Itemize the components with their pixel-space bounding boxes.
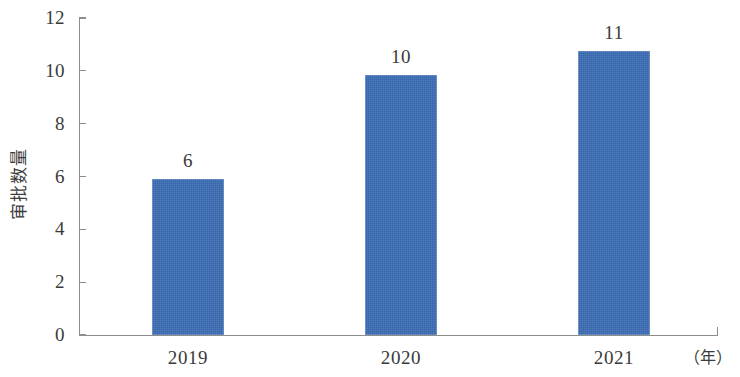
- y-axis-tick-label: 6: [31, 167, 65, 186]
- y-axis-tick-label: 2: [31, 272, 65, 291]
- y-axis-tick-label: 12: [31, 8, 65, 27]
- x-axis-tick-label: 2020: [335, 348, 467, 367]
- y-axis-tick: [79, 17, 86, 18]
- bar-value-label: 10: [345, 47, 457, 66]
- bar-chart: 审批数量 121086420 62019102020112021 （年）: [0, 0, 740, 377]
- bar: [152, 179, 224, 335]
- bar-value-label: 11: [558, 23, 670, 42]
- x-axis-tick-label: 2021: [548, 348, 680, 367]
- bar: [365, 75, 437, 335]
- bar: [578, 51, 650, 335]
- x-axis-end-tick: [717, 327, 718, 335]
- y-axis-tick-label: 4: [31, 219, 65, 238]
- y-axis-tick: [79, 229, 86, 230]
- y-axis-tick: [79, 282, 86, 283]
- y-axis-tick-label: 10: [31, 61, 65, 80]
- y-axis-title: 审批数量: [11, 129, 28, 239]
- y-axis-tick-label: 0: [31, 325, 65, 344]
- y-axis-tick: [79, 176, 86, 177]
- bar-value-label: 6: [132, 151, 244, 170]
- y-axis-tick-label: 8: [31, 114, 65, 133]
- x-axis-unit-label: （年）: [676, 349, 740, 367]
- y-axis-tick: [79, 334, 86, 335]
- y-axis-tick: [79, 70, 86, 71]
- x-axis-tick-label: 2019: [122, 348, 254, 367]
- y-axis-tick: [79, 123, 86, 124]
